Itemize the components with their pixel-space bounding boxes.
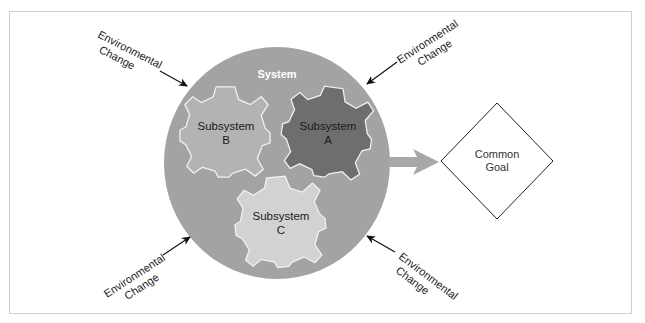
goal-label-line2: Goal bbox=[485, 161, 508, 173]
env-arrow-bottom-left bbox=[163, 237, 190, 255]
env-label-bottom-left: Environmental Change bbox=[102, 251, 175, 310]
env-arrow-bottom-right bbox=[367, 236, 395, 252]
env-arrow-top-left bbox=[160, 71, 187, 86]
subsystem-a-label: Subsystem bbox=[300, 120, 357, 132]
subsystem-b-gear bbox=[180, 87, 270, 177]
output-arrow bbox=[389, 149, 439, 175]
subsystem-b-letter: B bbox=[222, 134, 230, 146]
subsystem-b-label: Subsystem bbox=[198, 120, 255, 132]
goal-label-line1: Common bbox=[475, 148, 520, 160]
subsystem-c-label: Subsystem bbox=[253, 210, 310, 222]
env-label-bottom-right: Environmental Change bbox=[389, 250, 460, 312]
env-label-top-right: Environmental Change bbox=[395, 17, 468, 76]
subsystem-a-letter: A bbox=[324, 134, 332, 146]
env-label-top-left: Environmental Change bbox=[90, 28, 164, 82]
env-arrow-top-right bbox=[367, 62, 397, 84]
systems-diagram: System Subsystem B Subsystem A Subsystem… bbox=[0, 0, 645, 323]
system-label: System bbox=[257, 68, 296, 80]
subsystem-c-letter: C bbox=[277, 224, 285, 236]
